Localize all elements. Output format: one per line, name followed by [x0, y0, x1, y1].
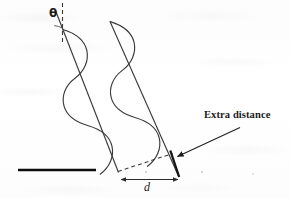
wavefront-dashed-line: [118, 154, 173, 172]
figure-canvas: θ d Extra distance: [0, 0, 290, 198]
sine-wave-2: [110, 22, 160, 167]
extra-distance-label: Extra distance: [204, 110, 270, 121]
d-spacing-label: d: [144, 181, 150, 193]
bragg-diffraction-diagram: [0, 0, 290, 198]
scan-speck: [145, 171, 147, 173]
extra-distance-pointer-arrow: [178, 128, 241, 157]
scan-speck: [252, 173, 254, 175]
incident-ray-2: [110, 22, 179, 177]
sine-wave-1: [63, 30, 113, 175]
scan-speck: [201, 171, 203, 173]
extra-distance-segment: [170, 151, 179, 178]
theta-angle-label: θ: [49, 7, 57, 19]
